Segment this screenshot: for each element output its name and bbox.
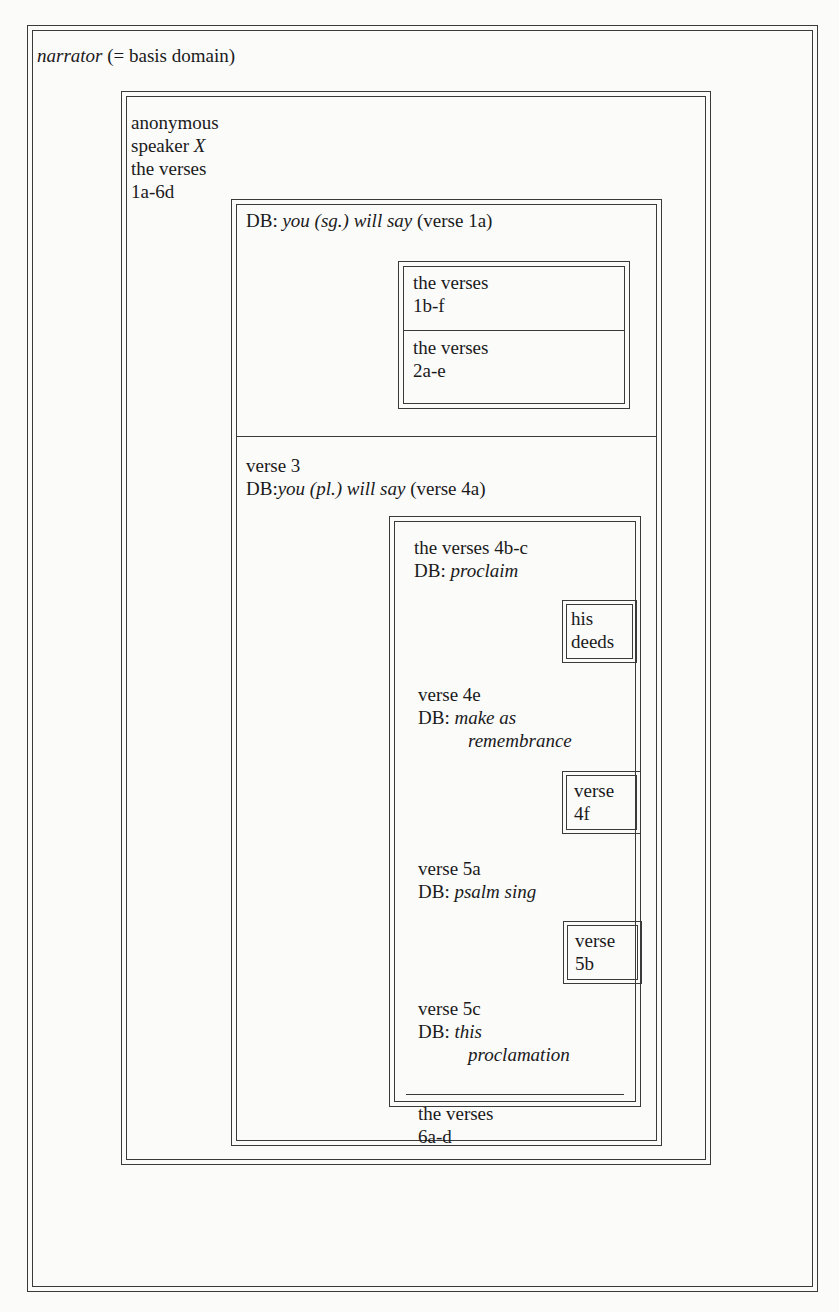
verse-4f-text: verse 4f bbox=[574, 779, 614, 825]
db2-label: verse 3 DB:you (pl.) will say (verse 4a) bbox=[246, 454, 486, 500]
section-4b-c: the verses 4b-c DB: proclaim bbox=[414, 536, 528, 582]
speaker-x-italic: X bbox=[194, 135, 206, 156]
db-psalm-sing: psalm sing bbox=[454, 881, 536, 902]
section-5c: verse 5c DB: this proclamation bbox=[418, 997, 570, 1066]
speaker-x-label: anonymous speaker X the verses 1a-6d bbox=[131, 111, 219, 203]
db2-italic: you (pl.) will say bbox=[278, 478, 406, 499]
page-top-edge bbox=[0, 0, 839, 8]
verses-1b-f-cell: the verses 1b-f bbox=[413, 271, 488, 317]
db-proclamation: proclamation bbox=[418, 1043, 570, 1066]
db1-label: DB: you (sg.) will say (verse 1a) bbox=[246, 209, 492, 232]
db-proclaim: proclaim bbox=[450, 560, 518, 581]
db2-line: DB:you (pl.) will say (verse 4a) bbox=[246, 477, 486, 500]
verses-1b-2e-divider bbox=[403, 330, 625, 331]
speaker-line-1: anonymous bbox=[131, 111, 219, 134]
his-deeds-text: his deeds bbox=[571, 607, 614, 653]
verse-5b-text: verse 5b bbox=[575, 929, 615, 975]
section-4e: verse 4e DB: make as remembrance bbox=[418, 683, 572, 752]
speaker-line-4: 1a-6d bbox=[131, 180, 219, 203]
section-5a: verse 5a DB: psalm sing bbox=[418, 857, 536, 903]
db-remembrance: remembrance bbox=[418, 729, 572, 752]
verses-2a-e-cell: the verses 2a-e bbox=[413, 336, 488, 382]
verses-6a-d-cell: the verses 6a-d bbox=[418, 1102, 493, 1148]
speaker-line-3: the verses bbox=[131, 157, 219, 180]
narrator-label: narrator (= basis domain) bbox=[37, 44, 235, 67]
narrator-label-rest: (= basis domain) bbox=[102, 45, 235, 66]
db1-italic: you (sg.) will say bbox=[282, 210, 412, 231]
narrator-label-italic: narrator bbox=[37, 45, 102, 66]
db-make-as: make as bbox=[454, 707, 516, 728]
verse-3-label: verse 3 bbox=[246, 454, 486, 477]
db-this: this bbox=[454, 1021, 481, 1042]
db-section-divider bbox=[236, 436, 657, 437]
verses-6a-d-divider bbox=[406, 1094, 624, 1095]
speaker-line-2: speaker X bbox=[131, 134, 219, 157]
